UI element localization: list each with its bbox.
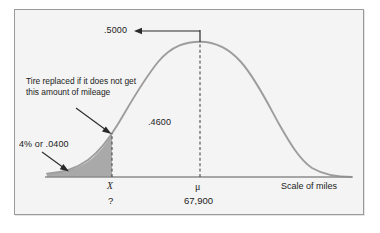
note-leader-arrow <box>76 108 112 134</box>
tail-area-label: 4% or .0400 <box>19 140 69 149</box>
x-axis-title: Scale of miles <box>281 182 337 191</box>
center-area-label: .4600 <box>148 118 171 127</box>
half-area-leader-arrow <box>134 28 200 34</box>
half-area-label: .5000 <box>104 26 127 35</box>
x-axis-tick-x-value: ? <box>108 196 113 206</box>
tail-area-leader-arrow <box>42 152 69 172</box>
x-axis-tick-x-symbol: X <box>107 182 113 192</box>
figure-root: .5000 Tire replaced if it does not get t… <box>0 0 380 233</box>
x-axis-tick-mu-symbol: μ <box>195 182 200 192</box>
x-axis-tick-mu-value: 67,900 <box>184 196 213 206</box>
annotation-note-text: Tire replaced if it does not get this am… <box>26 76 151 98</box>
